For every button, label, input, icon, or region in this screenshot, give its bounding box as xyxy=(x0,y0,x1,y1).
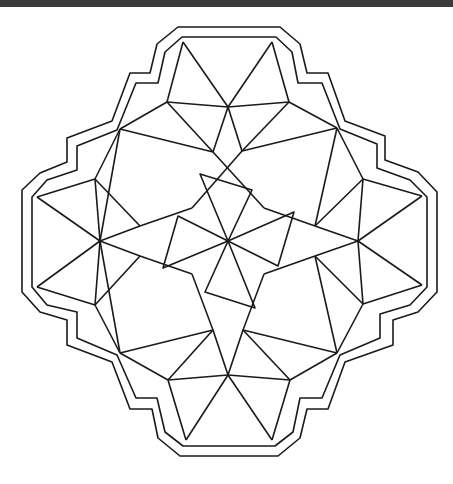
pattern-line xyxy=(358,241,422,285)
pattern-line xyxy=(95,241,100,305)
pattern-line xyxy=(183,42,228,107)
pattern-line xyxy=(228,375,290,380)
pattern-line xyxy=(167,42,183,102)
pattern-line xyxy=(315,128,337,226)
pattern-line xyxy=(358,241,363,304)
pattern-line xyxy=(228,107,242,151)
pattern-line xyxy=(213,330,228,375)
pattern-line xyxy=(100,129,120,241)
pattern-line xyxy=(37,197,100,241)
pattern-line xyxy=(243,274,264,330)
pattern-line xyxy=(290,353,337,380)
pattern-line xyxy=(168,330,213,380)
pattern-line xyxy=(243,330,337,353)
pattern-line xyxy=(95,179,100,241)
pattern-line xyxy=(289,102,337,128)
pattern-line xyxy=(167,102,228,107)
pattern-line xyxy=(315,179,363,226)
pattern-line xyxy=(264,256,315,274)
pattern-line xyxy=(100,226,140,241)
pattern-line xyxy=(358,179,363,241)
pattern-line xyxy=(228,330,243,375)
pattern-line xyxy=(95,256,140,305)
pattern-line xyxy=(315,256,363,304)
pattern-line xyxy=(120,129,213,152)
pattern-line xyxy=(228,375,272,440)
pattern-line xyxy=(337,128,363,179)
pattern-line xyxy=(120,330,213,353)
pattern-line xyxy=(228,102,289,107)
pattern-line xyxy=(168,380,186,440)
pattern-line xyxy=(95,179,140,226)
pattern-line xyxy=(272,42,289,102)
pattern-line xyxy=(358,196,422,241)
pinwheel-blade xyxy=(163,216,228,268)
pattern-line xyxy=(228,42,272,107)
pattern-line xyxy=(264,208,315,226)
pattern-line xyxy=(337,304,363,353)
pattern-line xyxy=(243,330,290,380)
pattern-line xyxy=(315,226,358,241)
pattern-line xyxy=(315,256,337,353)
mandala-drawing xyxy=(0,0,453,484)
pattern-line xyxy=(242,128,337,151)
pattern-line xyxy=(242,102,289,151)
center-pinwheel xyxy=(163,174,294,308)
pattern-line xyxy=(272,380,290,440)
pattern-line xyxy=(140,208,192,226)
pattern-line xyxy=(186,375,228,440)
pattern-line xyxy=(315,241,358,256)
pattern-line xyxy=(100,241,140,256)
pattern-line xyxy=(168,375,228,380)
pattern-line xyxy=(37,241,100,287)
pattern-line xyxy=(213,107,228,152)
pattern-line xyxy=(167,102,213,152)
pattern-line xyxy=(120,353,168,380)
pattern-line xyxy=(363,179,422,196)
